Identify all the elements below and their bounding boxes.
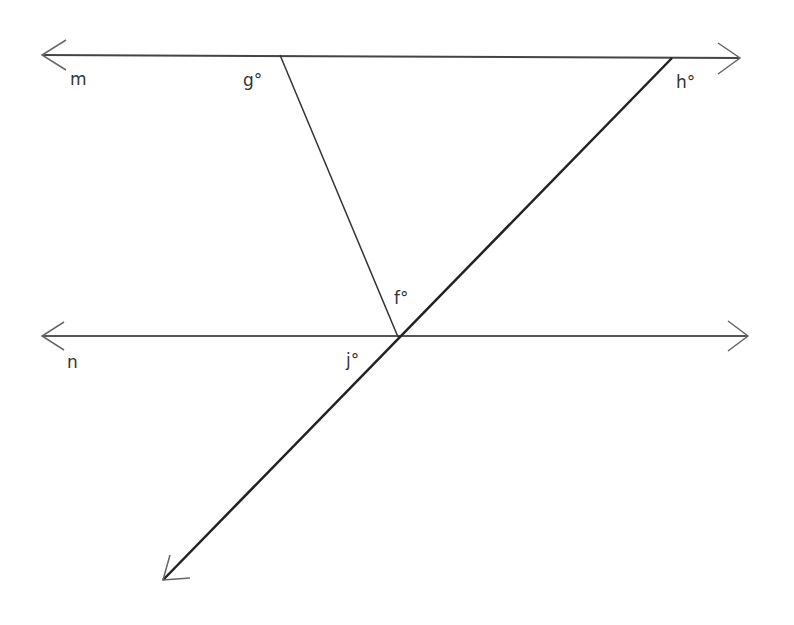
line-m	[42, 40, 740, 74]
label-n: n	[67, 352, 78, 372]
transversal-thick	[163, 58, 672, 580]
label-angle-g: g°	[243, 70, 262, 90]
transversal-thin	[280, 55, 398, 337]
label-angle-h: h°	[676, 72, 695, 92]
label-angle-f: f°	[394, 288, 409, 308]
geometry-diagram: m g° h° f° n j°	[0, 0, 794, 625]
line-n	[42, 321, 748, 351]
label-m: m	[70, 69, 87, 89]
label-angle-j: j°	[345, 350, 359, 370]
